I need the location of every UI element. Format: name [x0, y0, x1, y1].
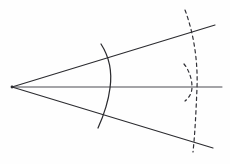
ray-diagram-canvas	[0, 0, 230, 164]
figure-root: Converging ray cone with solid and dashe…	[0, 0, 230, 164]
apex-point	[11, 86, 14, 89]
canvas-background	[0, 0, 230, 164]
